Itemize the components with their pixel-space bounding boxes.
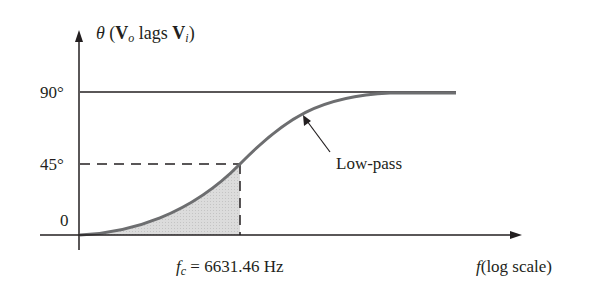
x-axis-label: f(log scale) [476,258,552,275]
low-pass-annotation: Low-pass [336,155,402,172]
y-tick-90: 90° [40,84,64,101]
cutoff-frequency-label: fc = 6631.46 Hz [176,258,283,275]
shaded-area [80,164,240,235]
phase-plot [0,0,606,294]
y-axis-label: θ (Vo lags Vi) [96,24,195,42]
y-tick-45: 45° [40,156,64,173]
x-axis-arrow-icon [510,231,522,239]
annotation-arrow-line [307,121,330,152]
y-tick-0: 0 [60,212,69,229]
y-axis-arrow-icon [75,30,83,42]
